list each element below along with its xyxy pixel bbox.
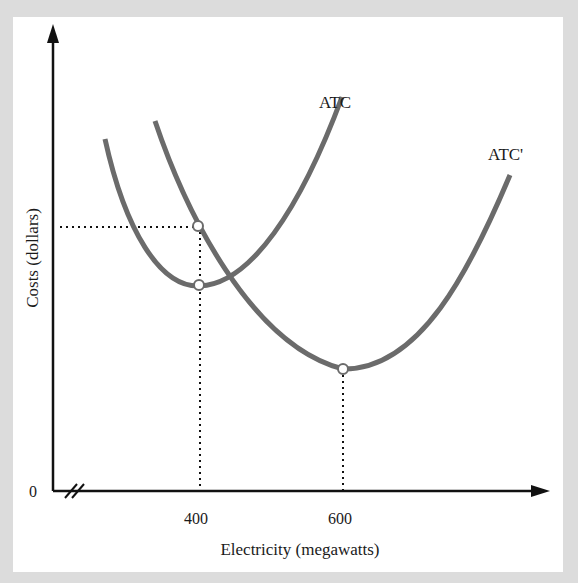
x-tick-400: 400 bbox=[184, 510, 208, 527]
atc-curve bbox=[105, 97, 342, 286]
x-axis-arrow-icon bbox=[531, 485, 550, 497]
atc-prime-curve bbox=[155, 121, 510, 369]
origin-label: 0 bbox=[29, 483, 37, 500]
atc-label: ATC bbox=[319, 93, 351, 112]
marker-atc-prime-400 bbox=[193, 221, 203, 231]
x-axis-label: Electricity (megawatts) bbox=[220, 540, 379, 559]
y-axis-label: Costs (dollars) bbox=[23, 208, 42, 308]
cost-curves-chart: ATC ATC' 0 400 600 Electricity (megawatt… bbox=[0, 0, 578, 583]
marker-atc-min-400 bbox=[194, 280, 204, 290]
y-axis-arrow-icon bbox=[47, 24, 59, 43]
atc-prime-label: ATC' bbox=[488, 145, 523, 164]
x-tick-600: 600 bbox=[328, 510, 352, 527]
marker-atc-prime-min-600 bbox=[338, 364, 348, 374]
